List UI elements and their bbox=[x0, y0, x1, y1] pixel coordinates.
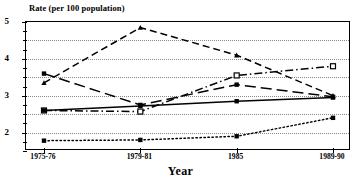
data-point-marker bbox=[138, 138, 142, 142]
series-line bbox=[44, 66, 333, 111]
y-tick-label: 5 bbox=[0, 16, 9, 26]
y-tick-minor bbox=[23, 151, 27, 152]
series-series-1 bbox=[41, 25, 335, 98]
data-point-marker bbox=[234, 99, 238, 103]
x-tick-label: 1979-81 bbox=[127, 152, 152, 161]
data-point-marker bbox=[331, 64, 336, 69]
data-point-marker bbox=[138, 109, 143, 114]
series-line bbox=[44, 28, 333, 96]
x-tick-label: 1989-90 bbox=[319, 152, 344, 161]
plot-area bbox=[25, 21, 350, 150]
series-series-2 bbox=[42, 71, 335, 107]
data-point-marker bbox=[331, 95, 335, 99]
y-tick-label: 2 bbox=[0, 127, 9, 137]
data-point-marker bbox=[138, 104, 142, 108]
y-tick-label: 3 bbox=[0, 90, 9, 100]
series-line bbox=[44, 98, 333, 111]
data-point-marker bbox=[331, 116, 335, 120]
series-line bbox=[44, 74, 333, 105]
series-series-5 bbox=[42, 116, 335, 143]
data-point-marker bbox=[42, 71, 46, 75]
data-point-marker bbox=[42, 108, 46, 112]
y-axis-title: Rate (per 100 population) bbox=[29, 3, 125, 13]
series-series-4 bbox=[42, 95, 335, 112]
y-tick-label: 4 bbox=[0, 53, 9, 63]
line-chart: Rate (per 100 population) 2345 1975-7619… bbox=[0, 0, 361, 188]
x-tick-label: 1985 bbox=[228, 152, 243, 161]
data-point-marker bbox=[234, 73, 239, 78]
x-tick-label: 1975-76 bbox=[30, 152, 55, 161]
series-layer bbox=[26, 22, 351, 151]
data-point-marker bbox=[234, 134, 238, 138]
x-axis-title: Year bbox=[0, 164, 361, 179]
data-point-marker bbox=[42, 138, 46, 142]
data-point-marker bbox=[234, 82, 238, 86]
series-line bbox=[44, 118, 333, 141]
series-series-3 bbox=[42, 64, 336, 114]
